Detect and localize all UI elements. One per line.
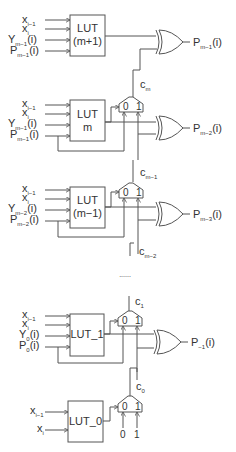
svg-text:LUT: LUT bbox=[77, 22, 98, 34]
stage-lut-m: xi−1 xi Ym−1(i) Pm−1(i) LUT m 0 1 Pm−2(i… bbox=[8, 97, 222, 182]
svg-text:0: 0 bbox=[122, 315, 128, 326]
svg-text:1: 1 bbox=[135, 315, 141, 326]
svg-text:1: 1 bbox=[135, 401, 141, 412]
svg-text:1: 1 bbox=[134, 429, 140, 440]
svg-text:cm−2: cm−2 bbox=[139, 245, 157, 259]
svg-text:LUT: LUT bbox=[77, 194, 98, 206]
input-labels: xi−1 xi Ym−1(i) Pm−1(i) bbox=[8, 13, 39, 58]
stage-lut-0: xi−1 xi LUT_0 0 1 0 1 bbox=[30, 396, 142, 442]
svg-text:LUT_1: LUT_1 bbox=[70, 328, 103, 340]
svg-text:Pm−3(i): Pm−3(i) bbox=[193, 208, 222, 222]
svg-text:xi: xi bbox=[37, 422, 44, 436]
svg-text:0: 0 bbox=[123, 101, 129, 112]
svg-text:m: m bbox=[83, 121, 92, 133]
svg-text:1: 1 bbox=[136, 187, 142, 198]
ellipsis: ...... bbox=[119, 271, 131, 278]
svg-text:Pm−2(i): Pm−2(i) bbox=[193, 122, 222, 136]
svg-text:cm−1: cm−1 bbox=[140, 166, 158, 180]
carry-label: cm bbox=[140, 78, 151, 92]
output-label: Pm−1(i) bbox=[193, 36, 222, 50]
svg-text:(m−1): (m−1) bbox=[73, 207, 102, 219]
svg-text:LUT: LUT bbox=[77, 108, 98, 120]
svg-text:0: 0 bbox=[123, 187, 129, 198]
svg-text:c1: c1 bbox=[135, 295, 145, 309]
svg-text:P0(i): P0(i) bbox=[19, 339, 39, 353]
svg-text:1: 1 bbox=[136, 101, 142, 112]
svg-text:LUT_0: LUT_0 bbox=[69, 415, 102, 427]
svg-text:P−1(i): P−1(i) bbox=[191, 336, 215, 350]
stage-lut-m-minus-1: xi−1 xi Ym−2(i) Pm−2(i) LUT (m−1) 0 1 Pm… bbox=[8, 182, 222, 259]
svg-text:c0: c0 bbox=[136, 380, 146, 394]
svg-text:0: 0 bbox=[122, 401, 128, 412]
xor-gate bbox=[156, 30, 183, 54]
stage-lut-m-plus-1: xi−1 xi Ym−1(i) Pm−1(i) LUT (m+1) Pm−1(i… bbox=[8, 13, 222, 97]
stage-lut-1: c1 xi−1 xi Y0(i) P0(i) LUT_1 0 1 P−1(i) … bbox=[19, 295, 215, 396]
carry-chain-diagram: xi−1 xi Ym−1(i) Pm−1(i) LUT (m+1) Pm−1(i… bbox=[0, 0, 236, 452]
svg-text:(m+1): (m+1) bbox=[73, 35, 102, 47]
mux: 0 1 bbox=[119, 183, 143, 198]
mux: 0 1 bbox=[118, 311, 142, 326]
svg-text:0: 0 bbox=[120, 429, 126, 440]
mux: 0 1 bbox=[118, 396, 142, 412]
mux: 0 1 bbox=[119, 97, 143, 112]
svg-text:xi−1: xi−1 bbox=[30, 404, 44, 418]
